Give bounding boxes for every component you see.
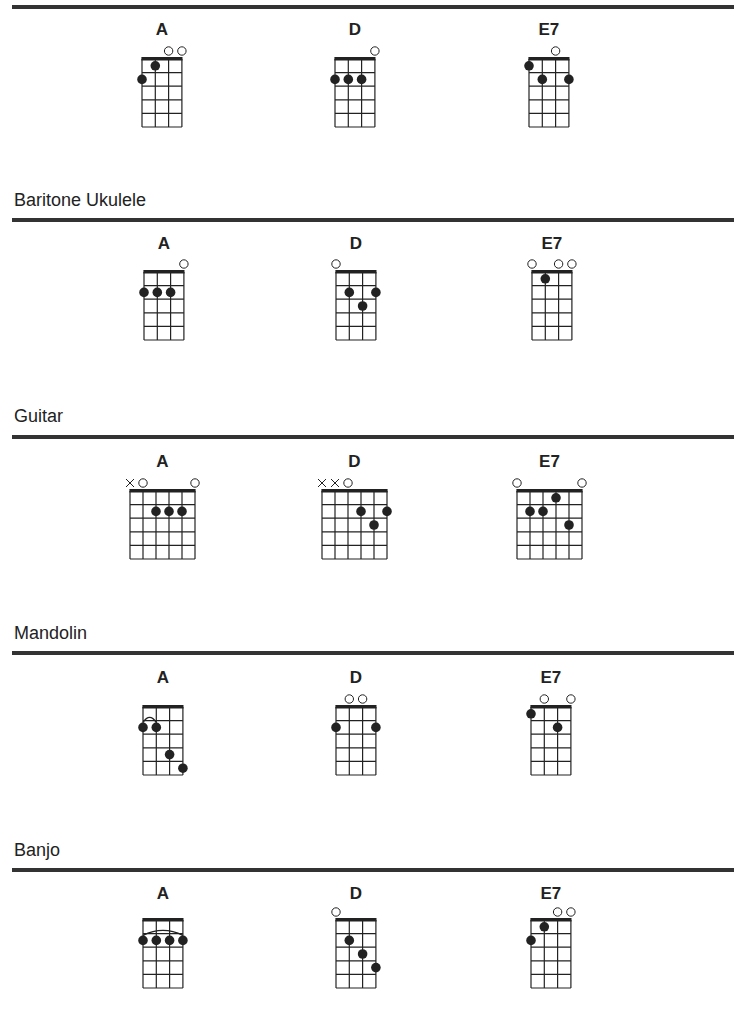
- finger-dot: [564, 75, 574, 85]
- open-string-icon: [332, 260, 340, 268]
- nut: [142, 705, 183, 709]
- finger-dot: [178, 936, 188, 946]
- nut: [129, 489, 195, 493]
- finger-dot: [524, 61, 534, 71]
- open-string-icon: [358, 695, 366, 703]
- chord-diagram: [138, 918, 188, 988]
- open-string-icon: [567, 695, 575, 703]
- chord-diagrams: [0, 0, 751, 1017]
- finger-dot: [151, 507, 161, 517]
- finger-dot: [151, 61, 161, 71]
- chord-diagram: [139, 260, 188, 340]
- finger-dot: [382, 507, 392, 517]
- finger-dot: [330, 75, 340, 85]
- nut: [335, 270, 376, 274]
- open-string-icon: [553, 908, 561, 916]
- finger-dot: [345, 936, 355, 946]
- nut: [334, 57, 375, 61]
- nut: [335, 918, 376, 922]
- finger-dot: [165, 750, 175, 760]
- nut: [528, 57, 569, 61]
- finger-dot: [165, 936, 175, 946]
- chord-diagram: [318, 479, 392, 559]
- open-string-icon: [345, 695, 353, 703]
- nut: [321, 489, 387, 493]
- finger-dot: [357, 75, 367, 85]
- nut: [516, 489, 582, 493]
- muted-string-icon: [318, 479, 326, 487]
- open-string-icon: [568, 260, 576, 268]
- chord-diagram: [332, 260, 381, 340]
- open-string-icon: [371, 47, 379, 55]
- chord-diagram: [526, 695, 575, 775]
- chord-diagram: [526, 908, 575, 988]
- open-string-icon: [332, 908, 340, 916]
- barre-arc: [143, 930, 183, 935]
- nut: [142, 918, 183, 922]
- chord-diagram: [138, 705, 188, 775]
- chord-diagram: [524, 47, 574, 127]
- open-string-icon: [180, 260, 188, 268]
- finger-dot: [369, 520, 379, 530]
- open-string-icon: [344, 479, 352, 487]
- finger-dot: [137, 75, 147, 85]
- finger-dot: [139, 288, 149, 298]
- finger-dot: [526, 709, 536, 719]
- finger-dot: [371, 288, 381, 298]
- finger-dot: [371, 963, 381, 973]
- finger-dot: [564, 520, 574, 530]
- nut: [530, 705, 571, 709]
- finger-dot: [551, 493, 561, 503]
- muted-string-icon: [331, 479, 339, 487]
- muted-string-icon: [126, 479, 134, 487]
- nut: [141, 57, 182, 61]
- open-string-icon: [191, 479, 199, 487]
- open-string-icon: [578, 479, 586, 487]
- finger-dot: [358, 301, 368, 311]
- nut: [143, 270, 184, 274]
- finger-dot: [152, 723, 162, 733]
- chord-diagram: [137, 47, 186, 127]
- chord-diagram: [331, 695, 381, 775]
- finger-dot: [358, 949, 368, 959]
- finger-dot: [541, 274, 551, 284]
- chord-diagram: [126, 479, 199, 559]
- open-string-icon: [567, 908, 575, 916]
- open-string-icon: [554, 260, 562, 268]
- open-string-icon: [528, 260, 536, 268]
- chord-diagram: [332, 908, 381, 988]
- finger-dot: [525, 507, 535, 517]
- finger-dot: [138, 723, 148, 733]
- chord-diagram: [330, 47, 379, 127]
- finger-dot: [153, 288, 163, 298]
- finger-dot: [178, 763, 188, 773]
- barre-arc: [143, 717, 156, 722]
- nut: [531, 270, 572, 274]
- finger-dot: [538, 507, 548, 517]
- open-string-icon: [540, 695, 548, 703]
- finger-dot: [538, 75, 548, 85]
- nut: [530, 918, 571, 922]
- open-string-icon: [139, 479, 147, 487]
- finger-dot: [344, 75, 354, 85]
- chord-diagram: [528, 260, 576, 340]
- finger-dot: [553, 723, 563, 733]
- nut: [335, 705, 376, 709]
- finger-dot: [356, 507, 366, 517]
- open-string-icon: [513, 479, 521, 487]
- finger-dot: [177, 507, 187, 517]
- finger-dot: [526, 936, 536, 946]
- finger-dot: [138, 936, 148, 946]
- open-string-icon: [164, 47, 172, 55]
- open-string-icon: [551, 47, 559, 55]
- finger-dot: [166, 288, 176, 298]
- finger-dot: [345, 288, 355, 298]
- chord-diagram: [513, 479, 586, 559]
- finger-dot: [164, 507, 174, 517]
- finger-dot: [331, 723, 341, 733]
- open-string-icon: [178, 47, 186, 55]
- finger-dot: [371, 723, 381, 733]
- finger-dot: [540, 922, 550, 932]
- finger-dot: [152, 936, 162, 946]
